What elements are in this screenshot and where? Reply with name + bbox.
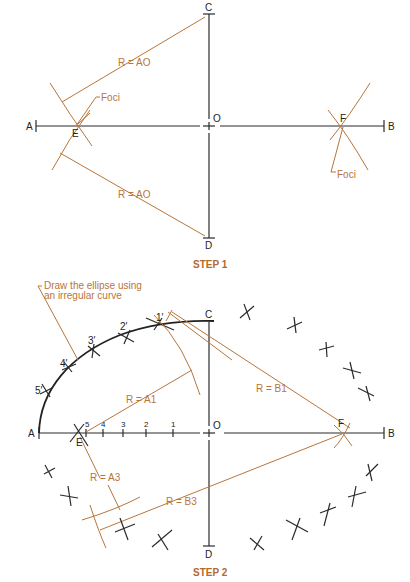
point-d-label: D — [205, 549, 212, 560]
curve-point-3: 3′ — [88, 335, 96, 346]
radius-label-lower: R = AO — [118, 189, 151, 200]
foci-label-right: Foci — [337, 169, 356, 180]
point-o-label: O — [213, 113, 221, 124]
point-b-label: B — [388, 121, 395, 132]
point-e-label: E — [76, 437, 83, 448]
point-a-label: A — [26, 121, 33, 132]
point-a-label: A — [28, 428, 35, 439]
foci-leader-right — [331, 127, 343, 172]
step2-title: STEP 2 — [193, 567, 228, 578]
ellipse-construction-diagram: A B C D O E F R = AO R = AO Foci Foci ST… — [0, 0, 410, 582]
point-c-label: C — [205, 2, 212, 13]
radius-label-upper: R = AO — [118, 57, 151, 68]
radius-b1-label: R = B1 — [256, 383, 287, 394]
division-1: 1 — [171, 420, 176, 429]
point-e-label: E — [72, 128, 79, 139]
foci-label-left: Foci — [101, 92, 120, 103]
curve-point-2: 2′ — [120, 321, 128, 332]
radius-a3-label: R = A3 — [90, 472, 121, 483]
point-b-label: B — [388, 428, 395, 439]
arc-e-upper — [50, 83, 92, 146]
point-c-label: C — [205, 309, 212, 320]
step2: A B C D O E F 5 4 3 2 1 1′ 2′ 3′ 4′ 5′ D… — [28, 280, 395, 578]
division-3: 3 — [121, 420, 126, 429]
division-5: 5 — [85, 420, 90, 429]
curve-point-5: 5′ — [35, 385, 43, 396]
arc-b3 — [90, 505, 106, 548]
radius-b3-label: R = B3 — [166, 496, 197, 507]
step1-title: STEP 1 — [193, 259, 228, 270]
point-o-label: O — [213, 420, 221, 431]
note-line-2: an irregular curve — [44, 290, 122, 301]
point-f-label: F — [340, 113, 346, 124]
division-2: 2 — [144, 420, 149, 429]
radius-b3-leader — [100, 434, 342, 530]
arc-f-upper — [330, 83, 370, 140]
point-d-label: D — [205, 240, 212, 251]
division-4: 4 — [101, 420, 106, 429]
curve-point-4: 4′ — [60, 358, 68, 369]
radius-a1-label: R = A1 — [126, 394, 157, 405]
radius-b1-leader — [172, 312, 350, 428]
curve-point-1: 1′ — [156, 312, 164, 323]
arc-e-lower — [52, 110, 90, 170]
step1: A B C D O E F R = AO R = AO Foci Foci ST… — [26, 2, 395, 270]
arc-1-inner — [154, 315, 200, 395]
point-f-label: F — [338, 418, 344, 429]
